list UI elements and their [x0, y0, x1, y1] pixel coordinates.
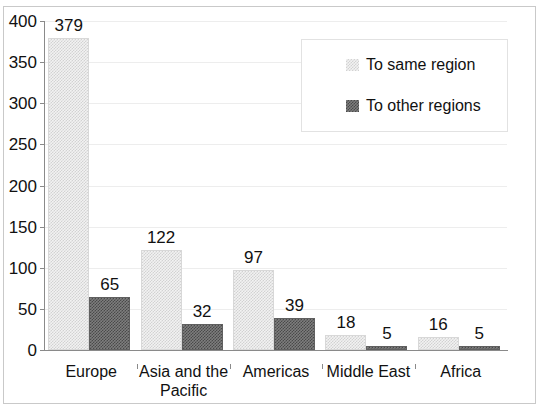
x-axis-line [44, 350, 508, 351]
gridline [45, 268, 507, 269]
x-axis-tick-mark [230, 364, 231, 369]
bar-same [233, 270, 274, 350]
y-axis-tick-label: 350 [9, 54, 37, 71]
y-axis-tick-label: 300 [9, 95, 37, 112]
bar-value-label: 122 [147, 229, 175, 246]
y-axis-tick-label: 200 [9, 177, 37, 194]
x-axis-category-label: Middle East [327, 362, 411, 381]
bar-same [48, 38, 89, 350]
bar-same [141, 250, 182, 350]
bar-value-label: 5 [475, 325, 484, 342]
bar-same [418, 337, 459, 350]
x-axis-tick-mark [322, 364, 323, 369]
bar-value-label: 379 [55, 17, 83, 34]
y-axis-tick-label: 0 [28, 342, 37, 359]
bar-other [274, 318, 315, 350]
gridline [45, 186, 507, 187]
light-checker-swatch-icon [346, 59, 359, 71]
bar-other [366, 346, 407, 350]
y-axis-tick-mark [40, 103, 45, 104]
y-axis-tick-label: 150 [9, 218, 37, 235]
bar-value-label: 16 [429, 316, 448, 333]
y-axis-tick-mark [40, 350, 45, 351]
y-axis-tick-mark [40, 62, 45, 63]
gridline [45, 144, 507, 145]
x-axis-category-label: Europe [65, 362, 117, 381]
y-axis-tick-label: 100 [9, 259, 37, 276]
bar-other [182, 324, 223, 350]
y-axis-tick-label: 400 [9, 13, 37, 30]
bar-value-label: 65 [100, 276, 119, 293]
gridline [45, 21, 507, 22]
bar-value-label: 18 [336, 314, 355, 331]
y-axis-tick-mark [40, 309, 45, 310]
y-axis-tick-mark [40, 268, 45, 269]
legend-label: To same region [366, 57, 475, 73]
y-axis-tick-mark [40, 186, 45, 187]
legend-label: To other regions [366, 98, 481, 114]
x-axis-tick-mark [415, 364, 416, 369]
legend-entry-to-same-region: To same region [346, 57, 475, 73]
gridline [45, 227, 507, 228]
x-axis-category-label: Africa [440, 362, 481, 381]
y-axis-tick-label: 250 [9, 136, 37, 153]
y-axis-tick-label: 50 [18, 300, 37, 317]
bar-other [89, 297, 130, 350]
bar-same [325, 335, 366, 350]
bar-value-label: 97 [244, 249, 263, 266]
bar-value-label: 39 [285, 297, 304, 314]
x-axis-category-label: Asia and the Pacific [139, 362, 228, 400]
chart-legend: To same region To other regions [301, 39, 508, 132]
y-axis-tick-mark [40, 21, 45, 22]
bar-chart: 050100150200250300350400 379651223297391… [3, 6, 536, 404]
bar-other [459, 346, 500, 350]
y-axis-tick-mark [40, 144, 45, 145]
bar-value-label: 5 [382, 325, 391, 342]
x-axis-category-label: Americas [243, 362, 310, 381]
y-axis-tick-mark [40, 227, 45, 228]
bar-value-label: 32 [193, 303, 212, 320]
dark-checker-swatch-icon [346, 100, 359, 112]
legend-entry-to-other-regions: To other regions [346, 98, 481, 114]
